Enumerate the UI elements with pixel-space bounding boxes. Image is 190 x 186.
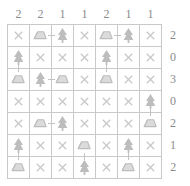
cell-glyph: [140, 157, 161, 178]
cell-glyph: [96, 91, 117, 112]
cell-empty-marker[interactable]: [96, 113, 118, 135]
cell-glyph: [74, 25, 95, 46]
cell-glyph: [140, 91, 161, 112]
tent-tree-link-h: [114, 35, 121, 36]
grid-row: 2: [8, 113, 185, 135]
column-clue-3: 1: [52, 4, 74, 25]
cell-tree[interactable]: [140, 91, 162, 113]
row-clue-2: 0: [162, 47, 185, 69]
tent-tree-link-v: [84, 153, 85, 160]
cell-glyph: [118, 113, 139, 134]
cell-empty-marker[interactable]: [140, 25, 162, 47]
cell-empty-marker[interactable]: [140, 47, 162, 69]
cell-empty-marker[interactable]: [74, 113, 96, 135]
cell-glyph: [52, 113, 73, 134]
cell-glyph: [8, 91, 29, 112]
cell-tree[interactable]: [8, 47, 30, 69]
cell-glyph: [52, 135, 73, 156]
cell-tree[interactable]: [30, 69, 52, 91]
cell-glyph: [96, 157, 117, 178]
cell-glyph: [140, 25, 161, 46]
cell-empty-marker[interactable]: [118, 91, 140, 113]
cell-glyph: [30, 69, 51, 90]
cell-glyph: [30, 135, 51, 156]
grid-row: 0: [8, 91, 185, 113]
cell-glyph: [118, 157, 139, 178]
cell-glyph: [140, 47, 161, 68]
cell-glyph: [140, 113, 161, 134]
cell-tent[interactable]: [74, 135, 96, 157]
tent-tree-link-v: [106, 65, 107, 72]
cell-glyph: [96, 25, 117, 46]
row-clue-3: 3: [162, 69, 185, 91]
cell-tent[interactable]: [30, 113, 52, 135]
cell-empty-marker[interactable]: [30, 157, 52, 179]
cell-glyph: [96, 47, 117, 68]
cell-glyph: [140, 135, 161, 156]
column-clue-2: 2: [30, 4, 52, 25]
cell-tree[interactable]: [118, 135, 140, 157]
cell-tent[interactable]: [30, 25, 52, 47]
cell-tree[interactable]: [8, 135, 30, 157]
row-clue-5: 2: [162, 113, 185, 135]
cell-glyph: [30, 25, 51, 46]
tent-tree-link-v: [150, 109, 151, 116]
tent-tree-link-v: [128, 153, 129, 160]
cell-empty-marker[interactable]: [118, 113, 140, 135]
cell-empty-marker[interactable]: [140, 135, 162, 157]
grid-row: 2: [8, 25, 185, 47]
tent-tree-link-h: [48, 35, 55, 36]
cell-tree[interactable]: [96, 47, 118, 69]
cell-empty-marker[interactable]: [74, 91, 96, 113]
grid-corner-spacer: [162, 4, 185, 25]
cell-empty-marker[interactable]: [118, 69, 140, 91]
cell-glyph: [74, 135, 95, 156]
cell-empty-marker[interactable]: [8, 113, 30, 135]
cell-empty-marker[interactable]: [30, 135, 52, 157]
cell-glyph: [30, 113, 51, 134]
column-clue-6: 1: [118, 4, 140, 25]
cell-empty-marker[interactable]: [96, 91, 118, 113]
grid-row: 2: [8, 157, 185, 179]
cell-empty-marker[interactable]: [96, 157, 118, 179]
cell-glyph: [96, 69, 117, 90]
cell-empty-marker[interactable]: [30, 91, 52, 113]
column-clue-4: 1: [74, 4, 96, 25]
column-clue-5: 2: [96, 4, 118, 25]
cell-empty-marker[interactable]: [74, 69, 96, 91]
cell-glyph: [8, 157, 29, 178]
cell-glyph: [118, 91, 139, 112]
cell-glyph: [8, 25, 29, 46]
cell-empty-marker[interactable]: [52, 91, 74, 113]
cell-glyph: [96, 135, 117, 156]
cell-glyph: [74, 157, 95, 178]
cell-empty-marker[interactable]: [52, 47, 74, 69]
cell-empty-marker[interactable]: [52, 135, 74, 157]
cell-glyph: [74, 47, 95, 68]
column-clue-1: 2: [8, 4, 30, 25]
tents-and-trees-puzzle: 22112112030212: [0, 0, 190, 186]
cell-empty-marker[interactable]: [74, 47, 96, 69]
cell-empty-marker[interactable]: [96, 135, 118, 157]
cell-empty-marker[interactable]: [8, 25, 30, 47]
cell-empty-marker[interactable]: [52, 157, 74, 179]
grid-row: 1: [8, 135, 185, 157]
cell-glyph: [52, 157, 73, 178]
cell-empty-marker[interactable]: [30, 47, 52, 69]
cell-glyph: [30, 47, 51, 68]
cell-glyph: [140, 69, 161, 90]
cell-glyph: [74, 91, 95, 112]
row-clue-1: 2: [162, 25, 185, 47]
cell-tent[interactable]: [96, 25, 118, 47]
cell-empty-marker[interactable]: [118, 47, 140, 69]
tent-tree-link-h: [48, 123, 55, 124]
cell-glyph: [118, 47, 139, 68]
cell-empty-marker[interactable]: [8, 91, 30, 113]
cell-glyph: [52, 91, 73, 112]
tent-tree-link-h: [48, 79, 55, 80]
cell-empty-marker[interactable]: [74, 25, 96, 47]
cell-glyph: [30, 91, 51, 112]
cell-empty-marker[interactable]: [140, 157, 162, 179]
cell-empty-marker[interactable]: [140, 69, 162, 91]
puzzle-grid: 22112112030212: [7, 4, 185, 179]
